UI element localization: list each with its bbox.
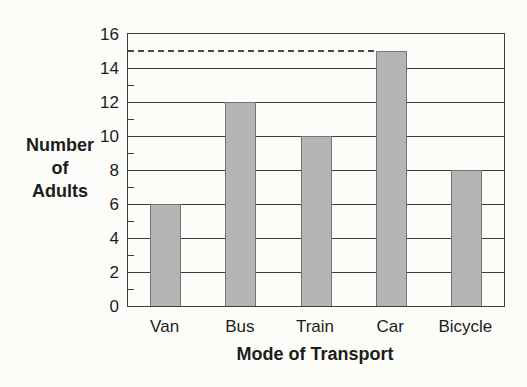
minor-tick-9 [128,153,134,154]
bar-train [301,136,332,306]
minor-tick-11 [128,119,134,120]
y-tick-label-16: 16 [100,26,119,43]
bar-bicycle [451,170,482,306]
bar-van [150,204,181,306]
bar-car [376,51,407,306]
x-tick-label-van: Van [150,316,179,338]
dashed-guide-line [128,50,376,52]
y-tick-label-14: 14 [100,60,119,77]
y-tick-label-6: 6 [110,196,119,213]
y-tick-label-4: 4 [110,230,119,247]
x-tick-label-bicycle: Bicycle [438,316,492,338]
y-tick-label-10: 10 [100,128,119,145]
y-axis-tick-labels: 0246810121416 [75,34,119,306]
y-tick-label-8: 8 [110,162,119,179]
x-axis-title: Mode of Transport [127,344,503,364]
bar-bus [225,102,256,306]
y-tick-label-2: 2 [110,264,119,281]
minor-tick-5 [128,221,134,222]
bar-chart-figure: Number of Adults 0246810121416 VanBusTra… [0,0,527,387]
minor-tick-3 [128,255,134,256]
minor-tick-1 [128,289,134,290]
x-tick-label-train: Train [296,316,334,338]
x-axis-category-labels: VanBusTrainCarBicycle [127,316,503,338]
y-tick-label-0: 0 [110,298,119,315]
x-tick-label-car: Car [376,316,403,338]
plot-area [127,33,505,307]
gridline-12 [128,102,504,103]
gridline-14 [128,68,504,69]
x-tick-label-bus: Bus [225,316,254,338]
minor-tick-13 [128,85,134,86]
minor-tick-7 [128,187,134,188]
y-tick-label-12: 12 [100,94,119,111]
